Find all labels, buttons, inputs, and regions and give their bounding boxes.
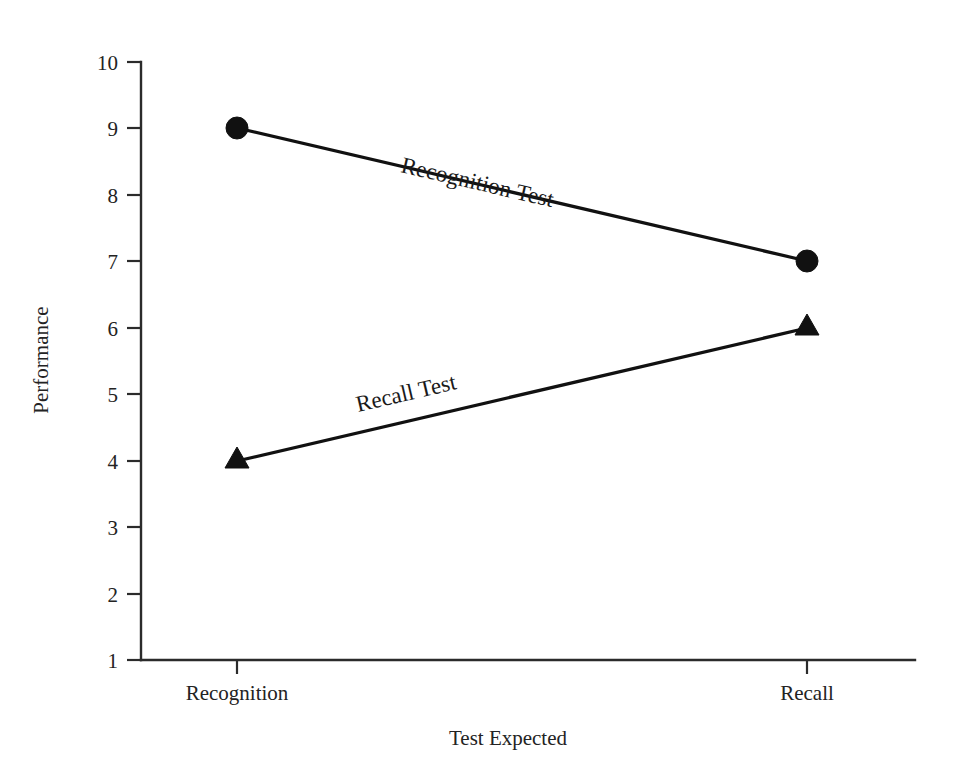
series-label-recall-test: Recall Test <box>353 369 459 417</box>
y-tick-label: 9 <box>108 117 119 141</box>
y-tick-label: 5 <box>108 383 119 407</box>
y-tick-label: 8 <box>108 184 119 208</box>
y-tick-label: 4 <box>108 450 119 474</box>
y-tick-label: 6 <box>108 317 119 341</box>
series-label-recognition-test: Recognition Test <box>399 153 557 213</box>
series-recall-test-line <box>237 328 807 461</box>
y-tick-label: 3 <box>108 516 119 540</box>
x-tick-label-recall: Recall <box>780 681 834 705</box>
series-recall-test: Recall Test <box>225 314 819 468</box>
y-tick-label: 2 <box>108 583 119 607</box>
x-tick-label-recognition: Recognition <box>186 681 289 705</box>
x-axis-ticks <box>237 660 807 674</box>
y-tick-label: 1 <box>108 649 119 673</box>
y-axis-title: Performance <box>29 306 53 413</box>
x-axis-title: Test Expected <box>449 726 568 750</box>
data-point-marker-circle <box>796 250 818 272</box>
chart-figure: 10 9 8 7 6 5 4 3 2 1 Recognition Recall … <box>0 0 957 784</box>
y-axis-tick-labels: 10 9 8 7 6 5 4 3 2 1 <box>97 51 119 673</box>
y-tick-label: 7 <box>108 250 119 274</box>
line-chart: 10 9 8 7 6 5 4 3 2 1 Recognition Recall … <box>0 0 957 784</box>
series-recognition-test: Recognition Test <box>226 117 818 272</box>
data-point-marker-triangle <box>795 314 819 335</box>
y-axis-ticks <box>127 62 141 660</box>
y-tick-label: 10 <box>97 51 118 75</box>
data-point-marker-circle <box>226 117 248 139</box>
